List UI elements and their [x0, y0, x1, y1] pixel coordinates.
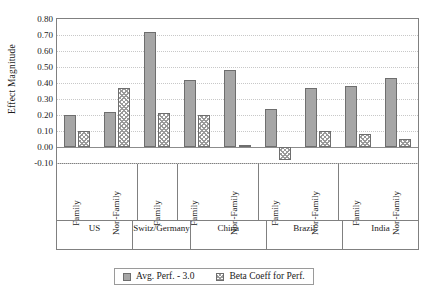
- group-label: China: [217, 223, 239, 233]
- y-tick-label: 0.30: [37, 95, 53, 104]
- y-tick-label: 0.70: [37, 31, 53, 40]
- bar-beta-coeff: [279, 147, 291, 160]
- group-label-cell: India: [342, 221, 418, 249]
- legend-item-series-1: Avg. Perf. - 3.0: [123, 271, 194, 282]
- group-label: US: [89, 223, 101, 233]
- group-separator: [137, 164, 138, 220]
- legend-swatch-hatched-icon: [216, 273, 224, 281]
- plot-area: [56, 18, 419, 164]
- y-axis-title-label: Effect Magnitude: [7, 44, 17, 114]
- y-tick-label: -0.10: [34, 159, 53, 168]
- group-label-cell: China: [190, 221, 266, 249]
- category-label-cell: Family: [256, 164, 293, 220]
- bar-avg-perf: [64, 115, 76, 147]
- bar-beta-coeff: [198, 115, 210, 147]
- group-label-cell: US: [57, 221, 132, 249]
- category-label-cell: Family: [138, 164, 175, 220]
- legend-item-series-2: Beta Coeff for Perf.: [216, 271, 304, 282]
- bar-avg-perf: [345, 86, 357, 147]
- y-tick-label: 0.60: [37, 47, 53, 56]
- category-label-cell: Family: [337, 164, 374, 220]
- group-label-cell: Switz/Germany: [132, 221, 190, 249]
- category-label-cell: Non-Family: [94, 164, 138, 220]
- bar-beta-coeff: [359, 134, 371, 147]
- bar-beta-coeff: [78, 131, 90, 147]
- chart-legend: Avg. Perf. - 3.0 Beta Coeff for Perf.: [114, 268, 314, 285]
- y-tick-label: 0.10: [37, 127, 53, 136]
- legend-label-series-2: Beta Coeff for Perf.: [229, 271, 304, 282]
- bar-avg-perf: [224, 70, 236, 147]
- y-tick-label: 0.20: [37, 111, 53, 120]
- group-label-row: USSwitz/GermanyChinaBrazilIndia: [57, 220, 418, 249]
- y-axis-tick-labels: 0.800.700.600.500.400.300.200.100.00-0.1…: [22, 18, 55, 164]
- category-label-cell: Family: [57, 164, 94, 220]
- bar-avg-perf: [265, 109, 277, 147]
- bars-layer: [57, 19, 418, 163]
- group-label: Brazil: [293, 223, 315, 233]
- group-label: Germany: [156, 223, 190, 233]
- group-separator: [338, 164, 339, 220]
- y-tick-label: 0.50: [37, 63, 53, 72]
- category-label-cell: Non-Family: [293, 164, 337, 220]
- y-tick-label: 0.80: [37, 15, 53, 24]
- category-label-row: FamilyNon-FamilyFamilyFamilyNon-FamilyFa…: [57, 164, 418, 220]
- bar-avg-perf: [385, 78, 397, 147]
- legend-label-series-1: Avg. Perf. - 3.0: [136, 271, 194, 282]
- bar-beta-coeff: [158, 113, 170, 147]
- bar-avg-perf: [305, 88, 317, 147]
- bar-avg-perf: [144, 32, 156, 147]
- bar-avg-perf: [104, 112, 116, 147]
- category-label-cell: Non-Family: [374, 164, 418, 220]
- bar-beta-coeff: [118, 88, 130, 147]
- legend-swatch-solid-icon: [123, 273, 131, 281]
- group-separator: [258, 164, 259, 220]
- y-tick-label: 0.40: [37, 79, 53, 88]
- bar-chart: Effect Magnitude 0.800.700.600.500.400.3…: [0, 0, 429, 302]
- y-tick-label: 0.00: [37, 143, 53, 152]
- group-label-cell: Brazil: [266, 221, 342, 249]
- category-label-cell: Non-Family: [212, 164, 256, 220]
- bar-beta-coeff: [399, 139, 411, 147]
- bar-beta-coeff: [239, 145, 251, 147]
- bar-avg-perf: [184, 80, 196, 147]
- bar-beta-coeff: [319, 131, 331, 147]
- group-separator: [177, 164, 178, 220]
- category-label-cell: Family: [175, 164, 212, 220]
- category-axis: FamilyNon-FamilyFamilyFamilyNon-FamilyFa…: [56, 164, 419, 250]
- group-label: Switz/: [133, 223, 156, 233]
- group-label: India: [371, 223, 390, 233]
- y-axis-title: Effect Magnitude: [2, 0, 22, 158]
